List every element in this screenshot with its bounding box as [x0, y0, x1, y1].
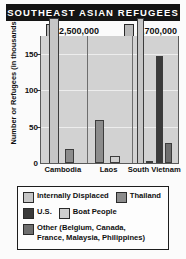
- plot-area: 501001500: [40, 36, 179, 164]
- refugees-chart-figure: SOUTHEAST ASIAN REFUGEES 2,500,000 2,700…: [0, 0, 186, 259]
- legend-item-internally-displaced: Internally Displaced: [23, 191, 109, 203]
- x-axis-labels: CambodiaLaosSouth Vietnam: [40, 165, 179, 177]
- bar-laos-thailand: [95, 120, 104, 163]
- bar-south-vietnam-internally-displaced: [137, 18, 144, 163]
- y-tick-label: 0: [34, 159, 38, 168]
- legend-label-other-line2: France, Malaysia, Philippines): [37, 233, 145, 242]
- legend-item-other: Other (Belgium, Canada,France, Malaysia,…: [23, 223, 145, 242]
- bar-south-vietnam-u-s: [156, 56, 163, 163]
- bar-group-cambodia: [41, 36, 87, 163]
- callout-value-cambodia: 2,500,000: [59, 26, 99, 36]
- legend-swatch-us-icon: [23, 208, 34, 219]
- y-tick-label: 50: [29, 122, 38, 131]
- legend-label-other: Other (Belgium, Canada,France, Malaysia,…: [37, 223, 145, 242]
- legend-swatch-boat-people-icon: [59, 208, 70, 219]
- bar-south-vietnam-other-belgium-canada-france-malaysia-philippines: [165, 143, 172, 163]
- bar-laos-boat-people: [110, 156, 119, 163]
- bar-group-south-vietnam: [132, 36, 178, 163]
- legend-item-boat-people: Boat People: [59, 207, 117, 219]
- legend-label-other-line1: Other (Belgium, Canada,: [37, 223, 126, 232]
- group-separator: [132, 36, 133, 163]
- legend: Internally Displaced Thailand U.S. Boat …: [17, 186, 169, 250]
- x-axis-label-laos: Laos: [100, 165, 118, 174]
- chart-title: SOUTHEAST ASIAN REFUGEES: [7, 7, 179, 18]
- legend-label-internally-displaced: Internally Displaced: [37, 191, 109, 201]
- legend-label-us: U.S.: [37, 207, 52, 217]
- bar-cambodia-internally-displaced: [49, 18, 58, 163]
- legend-label-thailand: Thailand: [130, 191, 161, 201]
- y-tick-label: 100: [25, 86, 38, 95]
- bar-south-vietnam-thailand: [146, 161, 153, 163]
- x-axis-label-cambodia: Cambodia: [44, 165, 81, 174]
- legend-item-thailand: Thailand: [116, 191, 161, 203]
- chart-title-banner: SOUTHEAST ASIAN REFUGEES: [6, 4, 180, 21]
- legend-item-us: U.S.: [23, 207, 52, 219]
- legend-row: Other (Belgium, Canada,France, Malaysia,…: [23, 223, 163, 242]
- group-separator: [87, 36, 88, 163]
- legend-label-boat-people: Boat People: [73, 207, 117, 217]
- bar-cambodia-thailand: [65, 149, 74, 163]
- x-axis-label-south-vietnam: South Vietnam: [128, 165, 181, 174]
- legend-row: Internally Displaced Thailand: [23, 191, 163, 203]
- legend-swatch-internally-displaced-icon: [23, 192, 34, 203]
- legend-swatch-other-icon: [23, 224, 34, 235]
- legend-row: U.S. Boat People: [23, 207, 163, 219]
- legend-swatch-thailand-icon: [116, 192, 127, 203]
- y-tick-label: 150: [25, 50, 38, 59]
- plot-area-wrapper: Number or Refugees (in thousands) 501001…: [0, 36, 186, 166]
- bar-group-laos: [87, 36, 133, 163]
- y-axis-label: Number or Refugees (in thousands): [9, 25, 18, 145]
